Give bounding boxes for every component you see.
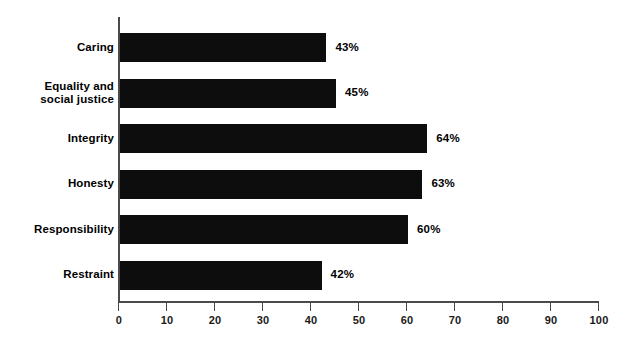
bar [120, 79, 336, 108]
x-tick-label: 20 [195, 314, 235, 326]
bar [120, 215, 408, 244]
bar-chart: 0102030405060708090100 Caring43%Equality… [0, 0, 628, 350]
bar-category-label: Honesty [68, 177, 114, 191]
x-tick-label: 80 [483, 314, 523, 326]
bar-category-label: Restraint [63, 268, 114, 282]
x-tick-mark [454, 303, 455, 311]
x-tick-label: 0 [99, 314, 139, 326]
bar-category-label: Caring [77, 41, 114, 55]
x-tick-mark [550, 303, 551, 311]
bar [120, 261, 322, 290]
plot-area: 0102030405060708090100 Caring43%Equality… [0, 0, 628, 350]
x-tick-label: 60 [387, 314, 427, 326]
bar-value-label: 42% [331, 268, 355, 280]
x-tick-label: 10 [147, 314, 187, 326]
x-tick-label: 70 [435, 314, 475, 326]
bar-value-label: 45% [345, 86, 369, 98]
x-tick-mark [166, 303, 167, 311]
bar-value-label: 43% [335, 41, 359, 53]
x-tick-label: 40 [291, 314, 331, 326]
bar-value-label: 60% [417, 223, 441, 235]
bar-value-label: 64% [436, 132, 460, 144]
bar-value-label: 63% [431, 177, 455, 189]
x-tick-label: 50 [339, 314, 379, 326]
x-tick-label: 100 [579, 314, 619, 326]
x-tick-mark [214, 303, 215, 311]
bar [120, 124, 427, 153]
x-tick-mark [310, 303, 311, 311]
bar-category-label: Integrity [68, 132, 114, 146]
x-tick-mark [262, 303, 263, 311]
x-tick-mark [118, 303, 119, 311]
x-tick-mark [598, 303, 599, 311]
bar-category-label: Equality and social justice [40, 80, 114, 107]
x-tick-label: 90 [531, 314, 571, 326]
x-tick-mark [406, 303, 407, 311]
x-tick-mark [502, 303, 503, 311]
x-tick-label: 30 [243, 314, 283, 326]
bar [120, 170, 422, 199]
x-tick-mark [358, 303, 359, 311]
bar-category-label: Responsibility [34, 223, 114, 237]
bar [120, 33, 326, 62]
